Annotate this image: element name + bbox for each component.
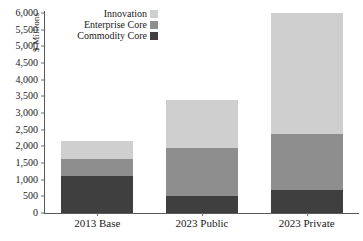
y-axis-tick-label: 3,500 [16,91,39,101]
legend-item[interactable]: Enterprise Core [60,20,158,30]
bar-segment-enterprise-core[interactable] [166,148,238,196]
legend-color-swatch [150,32,158,40]
plot-area [45,13,359,213]
y-axis-tick-label: 3,000 [16,108,39,118]
legend-item-label: Enterprise Core [84,20,147,30]
y-axis-tick-label: 2,500 [16,125,39,135]
bar-2023-private[interactable] [271,13,343,213]
bar-segment-innovation[interactable] [166,100,238,148]
y-axis-tick-labels: 6,0005,5005,0004,5004,0003,5003,0002,500… [0,13,44,213]
y-axis-tick-label: 4,500 [16,58,39,68]
y-axis-tick-label: 1,500 [16,158,39,168]
y-axis-tick-label: 500 [23,191,38,201]
legend-item[interactable]: Innovation [60,9,158,19]
y-axis-tick-label: 2,000 [16,141,39,151]
x-axis-tick-label: 2013 Base [42,216,152,230]
bar-segment-enterprise-core[interactable] [61,159,133,176]
stacked-bar-chart: $ Millions 6,0005,5005,0004,5004,0003,50… [0,0,363,241]
legend-color-swatch [150,21,158,29]
y-axis-tick-label: 6,000 [16,8,39,18]
bar-2023-public[interactable] [166,100,238,213]
bar-segment-commodity-core[interactable] [271,190,343,213]
y-axis-tick-label: 1,000 [16,175,39,185]
bar-segment-enterprise-core[interactable] [271,134,343,190]
y-axis-tick-label: 5,500 [16,25,39,35]
x-axis-tick-label: 2023 Private [252,216,362,230]
bar-2013-base[interactable] [61,141,133,213]
bar-segment-commodity-core[interactable] [61,176,133,213]
bar-segment-innovation[interactable] [271,13,343,134]
x-axis-tick-label: 2023 Public [147,216,257,230]
legend-item[interactable]: Commodity Core [60,31,158,41]
legend-color-swatch [150,10,158,18]
x-axis-tick-labels: 2013 Base2023 Public2023 Private [45,216,359,236]
bar-segment-innovation[interactable] [61,141,133,159]
legend-item-label: Innovation [104,9,147,19]
legend-item-label: Commodity Core [77,31,147,41]
bar-segment-commodity-core[interactable] [166,196,238,213]
chart-legend: InnovationEnterprise CoreCommodity Core [60,9,158,41]
y-axis-tick-label: 4,000 [16,75,39,85]
y-axis-tick-label: 0 [33,208,38,218]
y-axis-tick-label: 5,000 [16,41,39,51]
